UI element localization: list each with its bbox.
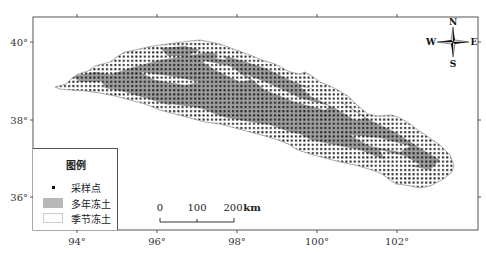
legend-title: 图例 (33, 157, 118, 172)
legend-item-permafrost: 多年冻土 (43, 197, 111, 209)
y-tick-label: 38° (10, 115, 28, 126)
compass-e: E (471, 37, 478, 47)
y-tick-label: 36° (10, 192, 28, 203)
scale-label-100: 100 (187, 202, 206, 213)
x-tick-label: 96° (148, 236, 166, 247)
scale-label-0: 0 (157, 202, 163, 213)
legend-item-sample-points: 采样点 (43, 181, 101, 193)
y-tick-label: 40° (10, 37, 28, 48)
legend: 图例 采样点 多年冻土 季节冻土 (33, 148, 118, 230)
permafrost-swatch-icon (43, 198, 63, 208)
seasonal-swatch-icon (43, 213, 63, 223)
compass-s: S (450, 59, 457, 69)
x-tick-label: 94° (68, 236, 86, 247)
x-tick-label: 100° (305, 236, 329, 247)
scale-label-200: 200 (223, 202, 242, 213)
compass-n: N (449, 17, 457, 27)
scale-unit: km (243, 202, 261, 213)
sample-dot-icon (43, 182, 63, 192)
x-tick-label: 98° (228, 236, 246, 247)
compass-w: W (425, 37, 437, 47)
legend-item-seasonal: 季节冻土 (43, 212, 111, 224)
x-tick-label: 102° (385, 236, 409, 247)
